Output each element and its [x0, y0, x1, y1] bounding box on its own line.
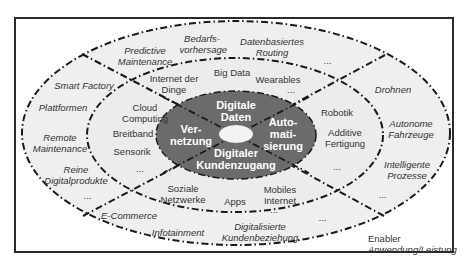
enabler-mobiles-internet: Mobiles Internet	[258, 185, 303, 206]
app-smart-factory: Smart Factory	[54, 81, 114, 92]
enabler-breitband: Breitband	[113, 129, 154, 140]
core-label-vernetzung: Ver- netzung	[170, 123, 212, 147]
enabler-soziale-netzwerke: Soziale Netzwerke	[156, 184, 211, 205]
app-intelligente-prozesse: Intelligente Prozesse	[380, 160, 435, 181]
app-daten-more: ...	[324, 56, 332, 67]
enabler-big-data: Big Data	[214, 68, 250, 79]
enabler-sensorik: Sensorik	[114, 147, 151, 158]
enabler-vernetzung-more: ...	[136, 164, 144, 175]
app-bedarfsvorhersage: Bedarfs-vorhersage	[180, 34, 225, 55]
enabler-cloud-computing: Cloud Computing	[120, 103, 170, 124]
legend-enabler: Enabler	[368, 233, 457, 244]
app-reine-digitalprodukte: Reine Digitalprodukte	[44, 165, 109, 186]
enabler-additive-fertigung: Additive Fertigung	[320, 128, 370, 149]
app-datenbasiertes-routing: Datenbasiertes Routing	[237, 37, 307, 58]
legend: Enabler Anwendung/Leistung	[368, 233, 457, 255]
enabler-internet-der-dinge: Internet der Dinge	[149, 74, 199, 95]
app-e-commerce: E-Commerce	[101, 211, 157, 222]
app-remote-maintenance: Remote Maintenance	[33, 133, 88, 154]
enabler-apps: Apps	[224, 197, 246, 208]
enabler-kundenzugang-more: ...	[270, 205, 278, 216]
enabler-automatisierung-more: ...	[333, 162, 341, 173]
app-plattformen: Plattformen	[39, 103, 88, 114]
core-label-kundenzugang: Digitaler Kundenzugang	[196, 147, 276, 171]
app-drohnen: Drohnen	[375, 85, 411, 96]
core-hole	[219, 125, 253, 143]
legend-application: Anwendung/Leistung	[368, 244, 457, 255]
app-vernetzung-more: ...	[84, 191, 92, 202]
app-digitalisierte-kundenbeziehung: Digitalisierte Kundenbeziehung	[220, 222, 300, 243]
enabler-robotik: Robotik	[321, 108, 353, 119]
app-kundenzugang-more: ...	[319, 213, 327, 224]
app-autonome-fahrzeuge: Autonome Fahrzeuge	[384, 119, 439, 140]
app-predictive-maintenance: Predictive Maintenance	[118, 46, 173, 67]
enabler-daten-more: ...	[287, 85, 295, 96]
core-label-digitale-daten: Digitale Daten	[206, 99, 266, 123]
app-automatisierung-more: ...	[379, 190, 387, 201]
app-infotainment: Infotainment	[152, 228, 204, 239]
